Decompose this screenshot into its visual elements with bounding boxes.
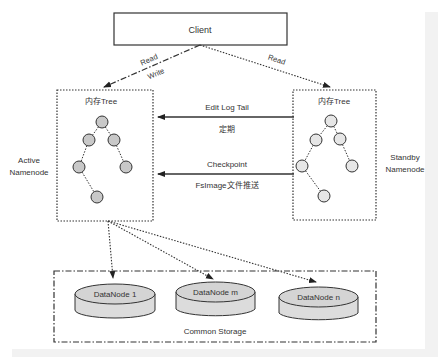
datanode-n-label: DataNode n [297, 293, 340, 302]
checkpoint-label: Checkpoint [207, 160, 248, 169]
client-label: Client [188, 25, 212, 35]
standby-tree-title: 内存Tree [318, 96, 351, 106]
standby-label-line1: Standby [390, 153, 419, 162]
edit-log-tail-label: Edit Log Tail [205, 103, 249, 112]
checkpoint-arrow: Checkpoint FsImage文件推送 [158, 160, 294, 190]
datanode-m-label: DataNode m [193, 288, 238, 297]
active-to-datanode-arrows [108, 221, 316, 282]
periodic-label: 定期 [219, 124, 235, 134]
standby-namenode: 内存Tree Standby Namenode [293, 90, 425, 220]
hdfs-ha-diagram: Client Read Write Read 内存Tree Active [0, 0, 438, 359]
edit-log-tail-arrow: Edit Log Tail 定期 [158, 103, 294, 134]
datanode-1: DataNode 1 [75, 284, 155, 318]
read-label-left: Read [139, 52, 159, 68]
active-tree-edges [79, 122, 126, 197]
datanode-1-label: DataNode 1 [94, 290, 137, 299]
write-label-left: Write [146, 66, 166, 81]
active-label-line1: Active [18, 156, 40, 165]
common-storage-label: Common Storage [184, 327, 247, 336]
active-label-line2: Namenode [9, 168, 49, 177]
client-box: Client [114, 13, 287, 45]
common-storage: DataNode 1 DataNode m DataNode n Common … [54, 271, 376, 342]
datanode-m: DataNode m [176, 282, 255, 316]
client-to-standby-arrow: Read [200, 45, 330, 87]
active-tree-title: 内存Tree [85, 96, 118, 106]
client-to-active-arrow: Read Write [104, 45, 200, 87]
read-label-right: Read [267, 53, 287, 67]
datanode-n: DataNode n [279, 287, 358, 320]
fsimage-push-label: FsImage文件推送 [195, 180, 258, 190]
standby-tree-edges [302, 121, 352, 196]
standby-label-line2: Namenode [385, 165, 425, 174]
active-namenode: 内存Tree Active Namenode [9, 90, 153, 221]
